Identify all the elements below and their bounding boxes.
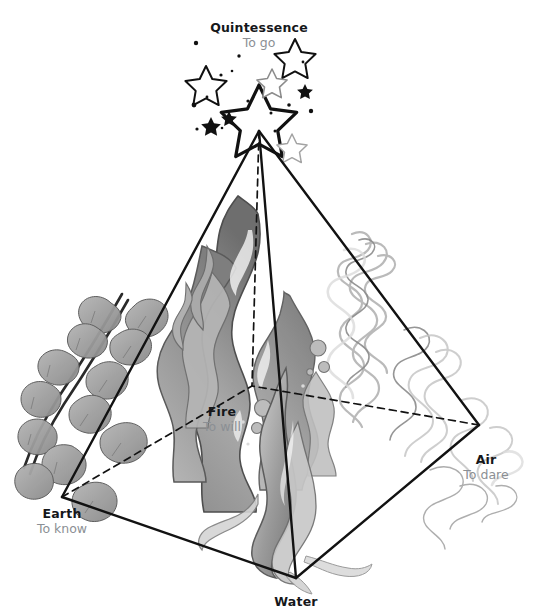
smoke-swirl-icon (328, 232, 523, 549)
elements-tetrahedron-diagram: Quintessence To go Fire To will Earth To… (0, 0, 548, 616)
diagram-canvas (0, 0, 548, 616)
star-cluster-icon (185, 39, 315, 163)
ivy-leaf-icon (15, 294, 168, 522)
